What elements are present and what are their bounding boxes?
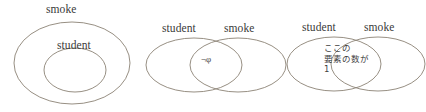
diagram-1-shapes — [0, 0, 144, 112]
figure-canvas: smoke student student smoke ¬φ student s… — [0, 0, 426, 112]
annotation-line-2: 要素の数が — [324, 54, 376, 65]
annotation-line-3: 1 — [324, 64, 376, 75]
diagram-3-right-label: smoke — [364, 22, 395, 34]
inner-ellipse-student — [44, 48, 106, 92]
diagram-3-left-label: student — [302, 22, 336, 34]
diagram-2-left-label: student — [162, 23, 196, 35]
diagram-overlap-annotated: student smoke ここの 要素の数が 1 — [286, 0, 426, 112]
diagram-2-right-label: smoke — [224, 23, 255, 35]
diagram-1-outer-label: smoke — [46, 4, 77, 16]
annotation-line-1: ここの — [324, 43, 376, 54]
left-ellipse-student — [146, 38, 242, 92]
diagram-2-intersection-symbol: ¬φ — [201, 55, 211, 64]
right-ellipse-smoke — [190, 38, 286, 92]
diagram-3-annotation: ここの 要素の数が 1 — [324, 43, 376, 75]
diagram-overlap-empty: student smoke ¬φ — [144, 0, 286, 112]
diagram-2-shapes — [144, 0, 286, 112]
diagram-nested-venn: smoke student — [0, 0, 144, 112]
diagram-1-inner-label: student — [57, 40, 91, 52]
